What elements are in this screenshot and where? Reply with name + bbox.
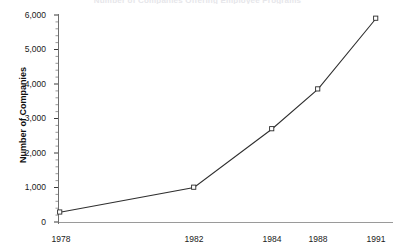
x-tick-label-1982: 1982 — [185, 234, 204, 244]
y-axis-title: Number of Companies — [18, 45, 28, 185]
line-chart-figure: Number of Companies Offering Employee Pr… — [0, 0, 395, 251]
x-tick-label-1991: 1991 — [367, 234, 386, 244]
x-tick-label-1978: 1978 — [52, 234, 71, 244]
x-tick-label-1984: 1984 — [263, 234, 282, 244]
x-tick-label-1988: 1988 — [309, 234, 328, 244]
x-axis-tick-labels: 1978 1982 1984 1988 1991 — [0, 0, 395, 251]
